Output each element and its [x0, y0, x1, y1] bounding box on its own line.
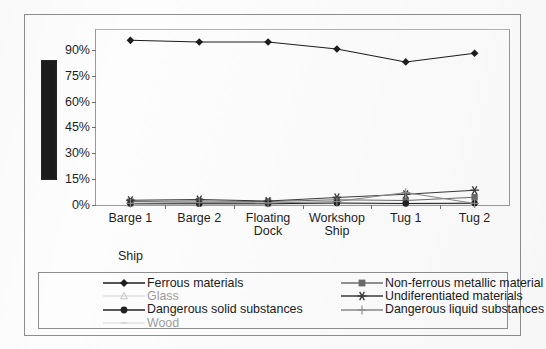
plot-area: 90%75%60%45%30%15%0% Barge 1Barge 2Float…: [95, 29, 510, 206]
data-point-marker-star: [357, 292, 366, 300]
legend-marker: [101, 317, 147, 329]
legend-swatch-diamond-icon: [101, 277, 147, 289]
data-point-marker-triangle: [121, 293, 128, 299]
legend-swatch-square-icon: [339, 277, 385, 289]
y-axis-tick-label: 15%: [65, 173, 90, 186]
data-point-marker-plus: [401, 188, 410, 197]
x-axis-tick-label: Tug 2: [432, 212, 518, 225]
x-axis-title: Ship: [118, 249, 143, 263]
data-point-marker-diamond: [195, 38, 203, 46]
legend-marker: [101, 290, 147, 302]
legend-swatch-bar-icon: [101, 317, 147, 329]
legend-label: Wood: [147, 317, 179, 330]
y-axis-tick-label: 90%: [65, 44, 90, 57]
y-axis-tick-label: 60%: [65, 95, 90, 108]
legend-item[interactable]: Wood: [101, 317, 303, 330]
legend-label: Glass: [147, 290, 179, 303]
legend-label: Undiferentiated materials: [385, 290, 523, 303]
data-point-marker-diamond: [402, 58, 410, 66]
y-axis-tick-label: 0%: [72, 199, 90, 212]
legend-item[interactable]: Non-ferrous metallic material: [339, 277, 544, 290]
x-axis-tick-mark: [234, 205, 235, 209]
data-point-marker-circle: [121, 306, 128, 313]
legend-column-left: Ferrous materialsGlassDangerous solid su…: [101, 277, 303, 330]
legend-item[interactable]: Dangerous liquid substances: [339, 303, 544, 316]
y-axis-tick-label: 45%: [65, 121, 90, 134]
legend-label: Dangerous solid substances: [147, 303, 303, 316]
data-point-marker-diamond: [333, 45, 341, 53]
x-axis-tick-mark: [303, 205, 304, 209]
chart-figure: 90%75%60%45%30%15%0% Barge 1Barge 2Float…: [0, 0, 546, 349]
y-axis-tick-label: 75%: [65, 69, 90, 82]
data-point-marker-star: [470, 186, 479, 194]
y-axis-tick-mark: [92, 205, 96, 206]
legend-marker: [101, 277, 147, 289]
data-point-marker-diamond: [127, 37, 135, 45]
legend-swatch-circle-icon: [101, 304, 147, 316]
legend: Ferrous materialsGlassDangerous solid su…: [38, 272, 508, 329]
legend-item[interactable]: Dangerous solid substances: [101, 303, 303, 316]
legend-item[interactable]: Undiferentiated materials: [339, 290, 544, 303]
x-axis-tick-mark: [371, 205, 372, 209]
legend-marker: [101, 304, 147, 316]
y-axis-tick-label: 30%: [65, 147, 90, 160]
legend-swatch-star-icon: [339, 290, 385, 302]
legend-marker: [339, 277, 385, 289]
series-ferrous-materials: [127, 37, 479, 66]
data-point-marker-diamond: [264, 38, 272, 46]
data-point-marker-circle: [403, 200, 409, 206]
legend-label: Ferrous materials: [147, 277, 243, 290]
data-point-marker-plus: [358, 305, 367, 314]
legend-column-right: Non-ferrous metallic materialUndiferenti…: [339, 277, 544, 317]
data-point-marker-diamond: [120, 279, 128, 287]
legend-label: Non-ferrous metallic material: [385, 277, 543, 290]
legend-item[interactable]: Glass: [101, 290, 303, 303]
legend-swatch-triangle-icon: [101, 290, 147, 302]
legend-swatch-plus-icon: [339, 304, 385, 316]
data-point-marker-square: [359, 280, 366, 287]
x-axis-tick-mark: [165, 205, 166, 209]
legend-marker: [339, 290, 385, 302]
data-point-marker-diamond: [471, 49, 479, 57]
legend-marker: [339, 304, 385, 316]
redacted-y-axis-title: [41, 60, 57, 180]
legend-item[interactable]: Ferrous materials: [101, 277, 303, 290]
series-dangerous-liquid-substances: [126, 188, 479, 207]
series-layer: [96, 30, 509, 205]
legend-label: Dangerous liquid substances: [385, 303, 544, 316]
x-axis-tick-mark: [440, 205, 441, 209]
